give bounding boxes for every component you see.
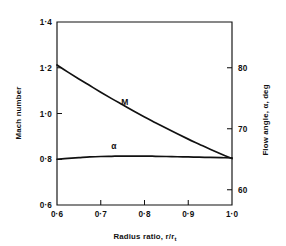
x-axis-title-subscript: t xyxy=(174,236,176,242)
x-axis-ticks xyxy=(101,200,189,205)
y-axis-left-tick-labels: 0·60·81·01·21·4 xyxy=(40,18,52,210)
x-tick-label-3: 0·9 xyxy=(182,210,194,219)
y-left-tick-label-4: 1·4 xyxy=(40,18,52,27)
y-left-tick-label-0: 0·6 xyxy=(40,201,52,210)
y-axis-right-tick-labels: 607080 xyxy=(238,64,248,195)
y-axis-left-title: Mach number xyxy=(14,87,23,140)
y-axis-right-title: Flow angle, α, deg xyxy=(261,84,270,155)
x-tick-label-4: 1·0 xyxy=(226,210,238,219)
x-tick-label-2: 0·8 xyxy=(138,210,150,219)
x-axis-title: Radius ratio, r/rt xyxy=(113,232,176,242)
x-axis-title-main: Radius ratio, r/r xyxy=(113,232,174,241)
y-axis-left-ticks xyxy=(57,68,62,160)
y-left-tick-label-1: 0·8 xyxy=(40,155,52,164)
x-tick-label-0: 0·6 xyxy=(51,210,63,219)
y-right-tick-label-0: 60 xyxy=(238,186,248,195)
curve-alpha xyxy=(57,156,232,159)
y-left-tick-label-3: 1·2 xyxy=(40,64,52,73)
y-right-tick-label-2: 80 xyxy=(238,64,248,73)
y-axis-right-ticks xyxy=(227,68,232,190)
curve-annotation-1: α xyxy=(111,141,117,151)
x-axis-tick-labels: 0·60·70·80·91·0 xyxy=(51,210,238,219)
curve-M xyxy=(57,65,232,159)
curve-annotations: Mα xyxy=(111,97,128,150)
chart-figure: 0·60·70·80·91·0 0·60·81·01·21·4 607080 M… xyxy=(0,0,286,246)
y-right-tick-label-1: 70 xyxy=(238,125,248,134)
y-left-tick-label-2: 1·0 xyxy=(40,110,52,119)
chart-canvas: 0·60·70·80·91·0 0·60·81·01·21·4 607080 M… xyxy=(0,0,286,246)
data-curves xyxy=(57,65,232,159)
x-tick-label-1: 0·7 xyxy=(95,210,107,219)
plot-frame xyxy=(57,22,232,205)
curve-annotation-0: M xyxy=(121,97,128,107)
